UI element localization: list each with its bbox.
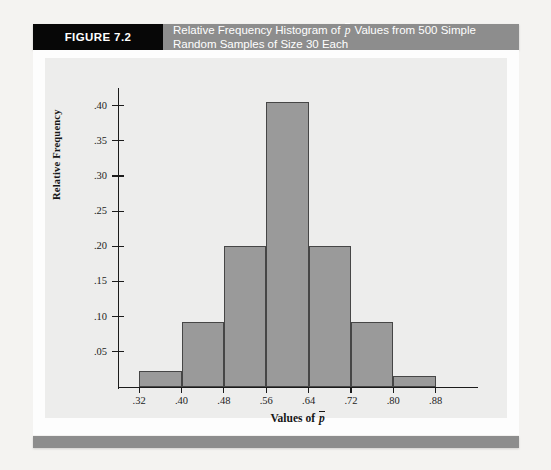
x-axis-tick-label: .88	[419, 395, 453, 406]
y-axis-tick-label-text: .35	[81, 135, 107, 146]
x-axis-tick	[181, 388, 182, 393]
figure-root: FIGURE 7.2 Relative Frequency Histogram …	[0, 0, 551, 470]
y-axis-tick-label: .35	[79, 135, 107, 147]
y-axis-title: Relative Frequency	[51, 109, 62, 200]
figure-header-banner: FIGURE 7.2 Relative Frequency Histogram …	[33, 24, 519, 50]
histogram-bar	[393, 376, 435, 387]
histogram-bar	[266, 102, 308, 387]
y-axis-tick-label-text: .05	[81, 346, 107, 357]
x-axis-tick-label: .80	[376, 395, 410, 406]
x-axis-tick-label: .32	[122, 395, 156, 406]
y-axis-tick-label: .20	[79, 240, 107, 252]
x-axis-tick-label: .72	[334, 395, 368, 406]
y-axis-tick-label: .10	[79, 311, 107, 323]
histogram-bar	[182, 322, 224, 387]
x-axis-title-text: Values of	[270, 412, 318, 424]
y-axis-tick-label: .30	[79, 170, 107, 182]
histogram-bar	[224, 246, 266, 387]
caption-text-part2: Values from 500 Simple	[351, 24, 475, 36]
y-axis-tick	[112, 211, 124, 212]
histogram-chart: Relative Frequency Values of p .05.10.15…	[33, 50, 519, 435]
x-axis-tick-label: .40	[165, 395, 199, 406]
x-axis-title: Values of p	[118, 412, 478, 424]
x-axis-tick	[435, 388, 436, 393]
y-axis-tick-label-text: .15	[81, 275, 107, 286]
y-axis-tick	[112, 316, 124, 317]
x-axis-tick	[223, 388, 224, 393]
x-axis-tick	[393, 388, 394, 393]
x-axis-tick-label: .64	[292, 395, 326, 406]
y-axis-tick-label-text: .30	[81, 170, 107, 181]
x-axis-tick-label: .48	[207, 395, 241, 406]
histogram-bar	[309, 246, 351, 387]
caption-text-line2: Random Samples of Size 30 Each	[173, 38, 348, 50]
y-axis-tick-label: .25	[79, 205, 107, 217]
y-axis-tick-label-text: .25	[81, 205, 107, 216]
y-axis-tick-label: .40	[79, 100, 107, 112]
x-axis-line	[118, 387, 478, 388]
x-axis-tick	[266, 388, 267, 393]
p-bar-symbol-caption: p	[344, 24, 352, 36]
y-axis-tick	[112, 140, 124, 141]
y-axis-tick-label: .05	[79, 346, 107, 358]
x-axis-tick	[308, 388, 309, 393]
p-bar-symbol-axis: p	[318, 412, 326, 424]
y-axis-tick	[112, 351, 124, 352]
figure-bottom-rule	[33, 436, 519, 448]
x-axis-tick	[139, 388, 140, 393]
y-axis-tick-label-text: .10	[81, 311, 107, 322]
figure-plate: Relative Frequency Values of p .05.10.15…	[33, 50, 519, 435]
y-axis-tick	[112, 281, 124, 282]
y-axis-tick-label-text: .20	[81, 240, 107, 251]
histogram-bar	[351, 322, 393, 387]
x-axis-tick	[350, 388, 351, 393]
y-axis-tick-label-text: .40	[81, 100, 107, 111]
y-axis-tick	[112, 175, 124, 176]
y-axis-line	[118, 88, 119, 389]
x-axis-tick-label: .56	[249, 395, 283, 406]
y-axis-tick	[112, 246, 124, 247]
histogram-bar	[139, 371, 181, 387]
figure-number-tag: FIGURE 7.2	[33, 24, 163, 50]
y-axis-tick	[112, 105, 124, 106]
figure-caption: Relative Frequency Histogram of p Values…	[163, 24, 519, 50]
caption-text-part1: Relative Frequency Histogram of	[173, 24, 344, 36]
y-axis-tick-label: .15	[79, 275, 107, 287]
